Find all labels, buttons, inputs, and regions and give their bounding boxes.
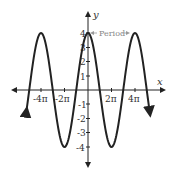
chart: -4π -2π 2π 4π 4 3 2 1 -1 -2 -3 -4 x y Pe… [0,0,170,177]
y-tick-label: -3 [77,128,86,138]
x-axis-label: x [157,76,163,87]
y-axis-label: y [92,9,99,20]
x-tick-label: 2π [105,94,117,104]
y-tick-label: -1 [78,100,87,110]
y-tick-label: -4 [76,143,85,153]
x-tick-label: -4π [33,94,48,104]
x-tick-label: 4π [128,94,140,104]
y-tick-label: 1 [80,72,86,82]
x-tick-label: -2π [55,94,70,104]
y-tick-label: -2 [77,114,86,124]
period-label: Period [99,29,125,38]
